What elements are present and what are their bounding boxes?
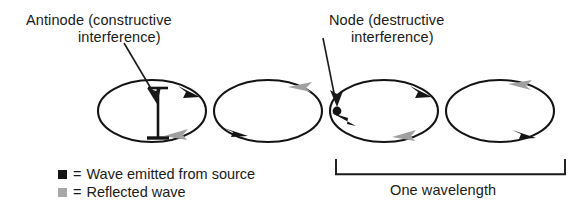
- antinode-label-line2: interference): [78, 29, 172, 46]
- legend-equals-reflected: =: [73, 184, 81, 200]
- gray-square-marker-icon: [58, 188, 67, 197]
- legend-label-emitted: Wave emitted from source: [86, 166, 255, 182]
- wave-loop-2: [214, 80, 322, 142]
- loop-4-emitted-arrowhead: [512, 130, 536, 139]
- legend-label-reflected: Reflected wave: [86, 184, 185, 200]
- wave-loop-4: [446, 80, 554, 142]
- node-label: Node (destructive interference): [329, 12, 444, 46]
- antinode-pointer-line: [124, 43, 156, 97]
- node-label-line2: interference): [351, 29, 444, 46]
- wavelength-label: One wavelength: [390, 182, 496, 199]
- wave-loop-3: [330, 80, 438, 142]
- antinode-label-line1: Antinode (constructive: [26, 12, 172, 28]
- standing-wave-diagram: Antinode (constructive interference) Nod…: [0, 0, 587, 211]
- node-dot-marker: [333, 107, 342, 116]
- antinode-pointer-arrow: [124, 43, 161, 104]
- wavelength-bracket: [335, 159, 566, 175]
- loop-3-bottom-path: [330, 111, 438, 142]
- node-label-line1: Node (destructive: [329, 12, 444, 28]
- loop-4-top-path: [446, 80, 554, 111]
- legend-item-reflected-wave: = Reflected wave: [58, 184, 186, 200]
- loop-4-bottom-path: [446, 111, 554, 142]
- node-pointer-arrow: [323, 38, 343, 107]
- antinode-label: Antinode (constructive interference): [26, 12, 172, 46]
- black-square-marker-icon: [58, 170, 67, 179]
- loop-2-bottom-path: [214, 111, 322, 142]
- node-pointer-line: [323, 38, 335, 98]
- legend-item-emitted-wave: = Wave emitted from source: [58, 166, 255, 182]
- legend-equals-emitted: =: [73, 166, 81, 182]
